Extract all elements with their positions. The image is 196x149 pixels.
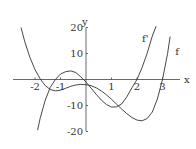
chart-container: -2-11232010-10-20xy f'f bbox=[0, 0, 196, 149]
plot-area: -2-11232010-10-20xy f'f bbox=[0, 0, 196, 149]
y-tick-label: -10 bbox=[67, 100, 83, 111]
x-tick-label: 3 bbox=[159, 81, 165, 92]
y-tick-label: 10 bbox=[70, 48, 83, 59]
y-axis-label: y bbox=[81, 16, 88, 27]
x-tick-label: 1 bbox=[108, 81, 114, 92]
y-tick-label: -20 bbox=[67, 126, 83, 137]
label-f-prime: f' bbox=[142, 33, 148, 44]
label-f: f bbox=[175, 46, 180, 57]
labels: f'f bbox=[142, 33, 180, 57]
x-tick-label: 2 bbox=[134, 81, 140, 92]
curve-f-prime bbox=[38, 26, 157, 130]
x-axis-label: x bbox=[184, 74, 190, 85]
x-tick-label: -2 bbox=[30, 81, 40, 92]
